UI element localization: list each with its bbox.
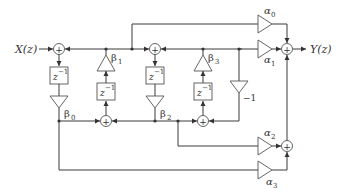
svg-text:α: α <box>264 127 271 138</box>
adder-4: + <box>198 116 209 127</box>
svg-text:+: + <box>151 45 159 55</box>
svg-text:−1: −1 <box>105 84 115 92</box>
gain-beta3: β 3 <box>194 52 219 71</box>
svg-text:β: β <box>111 52 117 63</box>
svg-text:β: β <box>160 108 166 119</box>
output-label: Y(z) <box>310 43 332 56</box>
svg-text:+: + <box>102 117 110 127</box>
svg-text:+: + <box>283 45 291 55</box>
block-diagram: X(z) + + z −1 β 0 β 1 z −1 <box>0 0 347 193</box>
gain-alpha3: α 3 <box>258 161 277 190</box>
svg-text:0: 0 <box>271 11 275 19</box>
delay-block-4: z −1 <box>194 83 212 100</box>
delay-block-1: z −1 <box>50 67 68 84</box>
output-adder: + <box>282 44 293 55</box>
svg-text:β: β <box>64 108 70 119</box>
delay-block-2: z −1 <box>97 83 115 100</box>
svg-text:−1: −1 <box>202 84 212 92</box>
gain-beta0: β 0 <box>50 96 75 122</box>
svg-text:+: + <box>283 142 291 152</box>
svg-text:β: β <box>208 52 214 63</box>
svg-text:3: 3 <box>215 58 219 66</box>
svg-text:α: α <box>266 176 273 187</box>
svg-text:1: 1 <box>118 58 122 66</box>
svg-text:1: 1 <box>271 60 275 68</box>
gain-beta1: β 1 <box>97 52 122 71</box>
svg-text:α: α <box>264 54 271 65</box>
adder-lower: + <box>282 141 293 152</box>
svg-text:α: α <box>264 5 271 16</box>
delay-block-3: z −1 <box>146 67 164 84</box>
gain-beta2: β 2 <box>146 96 171 122</box>
gain-alpha1: α 1 <box>258 40 275 68</box>
gain-neg-one: −1 <box>230 81 256 103</box>
gain-alpha0: α 0 <box>258 5 275 33</box>
svg-text:+: + <box>55 45 63 55</box>
adder-1: + <box>54 44 65 55</box>
svg-text:−1: −1 <box>154 68 164 76</box>
gain-alpha2: α 2 <box>258 127 275 155</box>
svg-text:−1: −1 <box>58 68 68 76</box>
svg-text:3: 3 <box>273 182 277 190</box>
svg-text:−1: −1 <box>243 93 256 103</box>
svg-text:2: 2 <box>271 133 275 141</box>
svg-text:+: + <box>199 117 207 127</box>
adder-3: + <box>101 116 112 127</box>
adder-2: + <box>150 44 161 55</box>
alpha2-branch-wire <box>178 121 258 146</box>
input-label: X(z) <box>14 43 37 56</box>
